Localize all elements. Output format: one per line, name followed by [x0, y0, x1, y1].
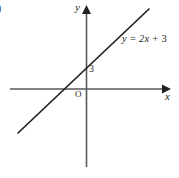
y-axis-arrowhead-icon: [82, 5, 91, 14]
y-intercept-label: 3: [89, 64, 94, 74]
linear-graph-figure: ) y x 3 O y=2x+3: [0, 0, 179, 178]
origin-label: O: [75, 90, 82, 99]
y-axis-label: y: [75, 2, 80, 13]
item-marker: ): [0, 1, 1, 14]
equation-lhs: y: [122, 33, 127, 44]
equation-slope-term: 2x: [139, 33, 149, 44]
equation-constant: 3: [161, 33, 166, 44]
equation-label: y=2x+3: [122, 34, 167, 45]
equation-plus: +: [152, 33, 158, 44]
plotted-line-y-equals-2x-plus-3: [18, 9, 149, 133]
equation-equals: =: [130, 33, 136, 44]
coordinate-plane-graphic: [0, 0, 179, 178]
x-axis-label: x: [165, 91, 170, 102]
